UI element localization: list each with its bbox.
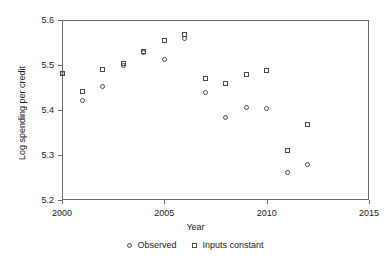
plot-data-area: [62, 20, 369, 200]
x-tick-label: 2015: [349, 208, 389, 218]
legend-entry-circle: Observed: [127, 240, 176, 250]
x-tick-mark: [267, 200, 268, 204]
data-point-square: [203, 76, 208, 81]
data-point-square: [285, 148, 290, 153]
x-axis-title: Year: [0, 222, 391, 232]
legend-label: Observed: [137, 240, 176, 250]
x-tick-label: 2000: [42, 208, 82, 218]
data-point-circle: [100, 84, 105, 89]
data-point-circle: [244, 105, 249, 110]
chart-figure: Log spending per credit Year 5.25.35.45.…: [0, 0, 391, 266]
x-tick-label: 2010: [247, 208, 287, 218]
legend-entry-square: Inputs constant: [192, 240, 263, 250]
data-point-square: [80, 89, 85, 94]
data-point-square: [141, 49, 146, 54]
data-point-circle: [223, 115, 228, 120]
data-point-square: [121, 61, 126, 66]
x-tick-mark: [369, 200, 370, 204]
chart-legend: ObservedInputs constant: [0, 240, 391, 250]
legend-label: Inputs constant: [202, 240, 263, 250]
y-tick-label: 5.6: [24, 15, 54, 25]
data-point-circle: [203, 90, 208, 95]
data-point-circle: [305, 162, 310, 167]
x-tick-mark: [164, 200, 165, 204]
y-tick-label: 5.5: [24, 60, 54, 70]
data-point-circle: [80, 98, 85, 103]
y-tick-label: 5.4: [24, 105, 54, 115]
data-point-circle: [264, 106, 269, 111]
y-tick-label: 5.2: [24, 195, 54, 205]
data-point-circle: [285, 170, 290, 175]
y-tick-label: 5.3: [24, 150, 54, 160]
circle-marker-icon: [127, 243, 132, 248]
x-tick-label: 2005: [144, 208, 184, 218]
data-point-square: [264, 68, 269, 73]
data-point-square: [305, 122, 310, 127]
data-point-square: [60, 71, 65, 76]
data-point-square: [244, 72, 249, 77]
data-point-square: [223, 81, 228, 86]
x-tick-mark: [62, 200, 63, 204]
data-point-circle: [162, 57, 167, 62]
data-point-square: [162, 38, 167, 43]
data-point-square: [182, 32, 187, 37]
square-marker-icon: [192, 243, 197, 248]
data-point-square: [100, 67, 105, 72]
